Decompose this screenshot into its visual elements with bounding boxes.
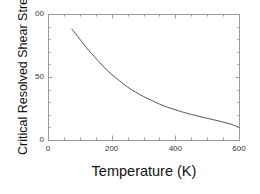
plot-frame-rect — [49, 15, 240, 141]
y-tick-label: 0 — [16, 135, 44, 144]
x-tick-label: 0 — [33, 144, 63, 153]
plot-frame — [49, 15, 240, 141]
plot-area — [0, 0, 260, 194]
y-tick-label: 00 — [16, 9, 44, 18]
y-tick-label: 50 — [16, 72, 44, 81]
x-tick-label: 400 — [160, 144, 190, 153]
x-tick-label: 200 — [97, 144, 127, 153]
x-tick-label: 600 — [224, 144, 254, 153]
chart-figure: Critical Resolved Shear Stress Temperatu… — [0, 0, 260, 194]
